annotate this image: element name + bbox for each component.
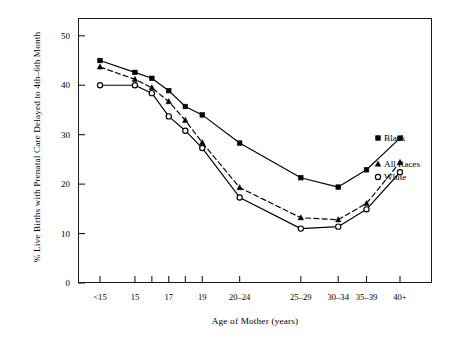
x-axis-title: Age of Mother (years) — [78, 316, 432, 326]
y-tick-label: 50 — [40, 31, 70, 41]
y-axis-title: % Live Births with Prenatal Care Delayed… — [30, 2, 44, 292]
y-tick-label: 20 — [40, 179, 70, 189]
y-tick-label: 40 — [40, 80, 70, 90]
y-tick-label: 0 — [40, 278, 70, 288]
legend-entry-white: White — [384, 172, 406, 182]
x-tick-label: 19 — [198, 292, 207, 302]
x-tick-label: 30–34 — [327, 292, 348, 302]
x-tick-label: 15 — [131, 292, 140, 302]
legend-entry-all-races: All Races — [384, 159, 420, 169]
x-tick-label: 25–29 — [290, 292, 311, 302]
x-tick-label: 35–39 — [356, 292, 377, 302]
plot-area — [78, 18, 432, 283]
chart-figure: % Live Births with Prenatal Care Delayed… — [0, 0, 454, 345]
y-tick-label: 30 — [40, 130, 70, 140]
y-tick-label: 10 — [40, 229, 70, 239]
x-tick-label: 17 — [164, 292, 173, 302]
x-tick-label: <15 — [93, 292, 106, 302]
x-tick-label: 40+ — [393, 292, 406, 302]
legend-entry-black: Black — [384, 133, 405, 143]
x-tick-label: 20–24 — [229, 292, 250, 302]
